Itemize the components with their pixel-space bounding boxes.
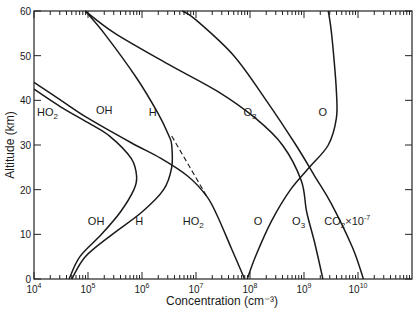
x-axis-label: Concentration (cm⁻³): [166, 294, 278, 308]
y-tick-label: 20: [20, 185, 32, 196]
x-tick-exponent: 5: [92, 282, 96, 289]
x-tick-label: 109: [296, 282, 311, 295]
curve-label-subscript: 2: [54, 112, 59, 121]
y-tick-label: 50: [20, 51, 32, 62]
curve-label-text: HO: [37, 106, 54, 118]
x-tick-base: 10: [296, 284, 308, 295]
curve-label-superscript: -7: [364, 214, 370, 221]
y-axis-label: Altitude (km): [3, 111, 17, 178]
curve-label-text: H: [149, 106, 157, 118]
x-tick-exponent: 10: [360, 282, 368, 289]
plot-frame: [34, 11, 412, 279]
x-tick-exponent: 7: [200, 282, 204, 289]
curve-label: CO2×10-7: [324, 214, 370, 230]
curve-label: O3: [243, 106, 257, 121]
curve-label-text: CO: [324, 215, 341, 227]
curve-o: [247, 11, 337, 279]
curve-o3: [85, 11, 323, 279]
curve-label-subscript: 2: [199, 221, 204, 230]
x-tick-exponent: 6: [146, 282, 150, 289]
curve-label-text: H: [135, 215, 143, 227]
x-tick-exponent: 4: [38, 282, 42, 289]
curve-label: OH: [96, 104, 113, 116]
curve-label: H: [135, 215, 143, 227]
curve-ho2: [34, 82, 245, 279]
curve-label-subscript: 3: [301, 221, 306, 230]
x-tick-base: 10: [349, 284, 361, 295]
dashed-transition-line: [172, 136, 207, 196]
curve-label-subscript: 3: [252, 112, 257, 121]
curve-label-text: O: [254, 215, 263, 227]
curve-h: [72, 11, 173, 279]
curve-label: HO2: [37, 106, 59, 121]
curve-label: O: [319, 106, 328, 118]
x-tick-label: 1010: [349, 282, 368, 295]
y-tick-label: 60: [20, 6, 32, 17]
x-tick-label: 105: [80, 282, 95, 295]
y-tick-label: 40: [20, 95, 32, 106]
axes: 10410510610710810910100102030405060: [20, 6, 412, 295]
x-tick-base: 10: [26, 284, 38, 295]
curve-label: O: [254, 215, 263, 227]
x-tick-exponent: 8: [254, 282, 258, 289]
x-tick-base: 10: [134, 284, 146, 295]
altitude-concentration-chart: 10410510610710810910100102030405060 HO2O…: [0, 0, 418, 312]
y-tick-label: 10: [20, 229, 32, 240]
x-tick-exponent: 9: [308, 282, 312, 289]
curves: [34, 11, 363, 279]
y-tick-label: 0: [25, 274, 31, 285]
curve-label-multiplier: ×10: [345, 215, 364, 227]
curve-label-text: HO: [183, 215, 200, 227]
curve-label: OH: [88, 215, 105, 227]
y-tick-label: 30: [20, 140, 32, 151]
curve-label: O3: [292, 215, 306, 230]
curve-label-text: OH: [88, 215, 105, 227]
curve-label: HO2: [183, 215, 205, 230]
curve-label-text: OH: [96, 104, 113, 116]
curve-label-text: O: [319, 106, 328, 118]
x-tick-base: 10: [80, 284, 92, 295]
curve-co2-x-10-7: [183, 11, 364, 279]
curve-label: H: [149, 106, 157, 118]
x-tick-label: 106: [134, 282, 149, 295]
